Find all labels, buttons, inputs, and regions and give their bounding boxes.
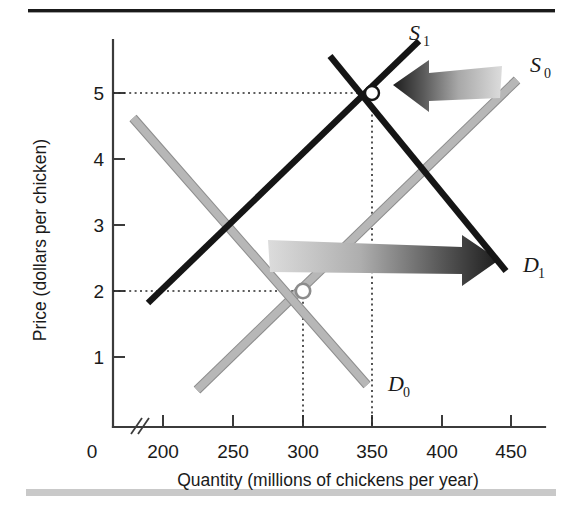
top-rule — [28, 9, 555, 12]
x-tick-label-200: 200 — [147, 441, 179, 462]
y-tick-label-3: 3 — [93, 215, 104, 236]
new-equilibrium-marker — [365, 86, 379, 100]
curve-label-s1: S 1 — [409, 20, 430, 49]
chart-canvas: 5 4 3 2 1 0 200 250 300 350 400 450 Quan… — [0, 0, 582, 510]
x-tick-label-350: 350 — [356, 441, 388, 462]
x-tick-label-250: 250 — [217, 441, 249, 462]
curve-label-s0-sub: 0 — [544, 66, 551, 81]
y-tick-label-4: 4 — [93, 149, 104, 170]
y-tick-label-1: 1 — [93, 347, 104, 368]
supply-demand-figure: 5 4 3 2 1 0 200 250 300 350 400 450 Quan… — [0, 0, 582, 510]
x-tick-label-450: 450 — [495, 441, 527, 462]
initial-equilibrium-marker — [296, 284, 310, 298]
curve-label-d0-text: D — [387, 371, 404, 396]
y-tick-label-2: 2 — [93, 281, 104, 302]
curve-label-d1: D 1 — [522, 252, 545, 281]
y-axis-ticks — [113, 93, 125, 357]
x-axis-title: Quantity (millions of chickens per year) — [177, 470, 479, 490]
x-axis-ticks — [163, 415, 511, 427]
demand-shift-arrow — [268, 235, 499, 286]
curve-label-d1-text: D — [522, 252, 539, 277]
curve-label-s1-sub: 1 — [423, 34, 430, 49]
curve-s0 — [197, 80, 517, 390]
curve-label-d1-sub: 1 — [538, 266, 545, 281]
curve-label-s0: S 0 — [530, 52, 551, 81]
x-tick-label-0: 0 — [87, 441, 98, 462]
x-tick-label-400: 400 — [426, 441, 458, 462]
curve-label-d0: D 0 — [387, 371, 410, 400]
bottom-rule — [26, 489, 556, 496]
y-tick-label-5: 5 — [93, 83, 104, 104]
curve-label-s0-text: S — [530, 52, 541, 77]
curve-label-s1-text: S — [409, 20, 420, 45]
x-tick-label-300: 300 — [287, 441, 319, 462]
y-axis-title: Price (dollars per chicken) — [30, 139, 50, 341]
curve-label-d0-sub: 0 — [403, 385, 410, 400]
